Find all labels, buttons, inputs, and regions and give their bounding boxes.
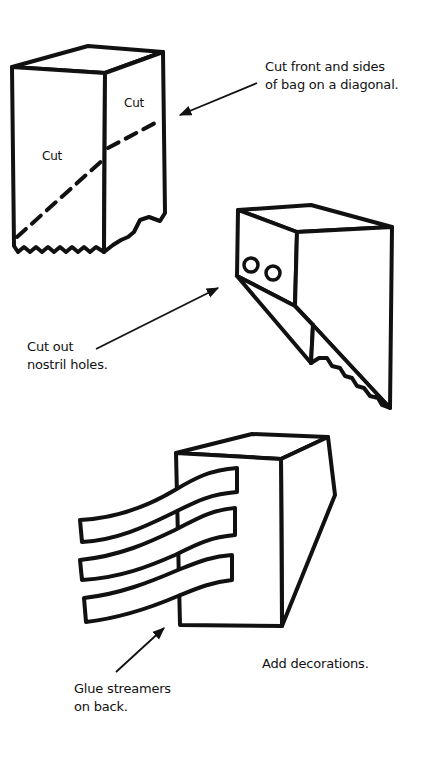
step1-caption: Cut front and sides of bag on a diagonal… — [265, 58, 398, 94]
step2-caption-line1: Cut out — [27, 338, 108, 356]
arrow-step1 — [180, 83, 257, 115]
step2-caption: Cut out nostril holes. — [27, 338, 108, 374]
nostril-hole-icon — [244, 258, 258, 272]
arrow-step2 — [96, 288, 218, 349]
arrow-step3 — [116, 628, 164, 672]
bag-craft-illustration: Cut Cut Cut front and sides of bag on a … — [0, 0, 433, 759]
nostril-hole-icon — [266, 266, 280, 280]
bag-front-label: Cut — [42, 147, 62, 165]
step3-caption-line1: Glue streamers — [74, 680, 171, 698]
add-decorations-caption: Add decorations. — [262, 655, 369, 673]
step3-caption: Glue streamers on back. — [74, 680, 171, 716]
step1-caption-line2: of bag on a diagonal. — [265, 76, 398, 94]
bag-side-label: Cut — [124, 94, 144, 112]
step2-caption-line2: nostril holes. — [27, 356, 108, 374]
step1-caption-line1: Cut front and sides — [265, 58, 398, 76]
step3-caption-line2: on back. — [74, 698, 171, 716]
cut-bag-step2 — [237, 205, 392, 408]
illustration-drawing — [0, 0, 433, 759]
